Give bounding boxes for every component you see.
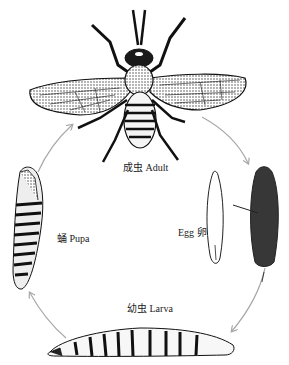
arrow-adult-to-egg	[202, 117, 248, 163]
pupa-label: 蛹 Pupa	[57, 234, 90, 244]
egg-outline-illustration	[207, 171, 223, 263]
egg-label: Egg 卵	[178, 228, 207, 238]
life-cycle-diagram: 成虫 Adult Egg 卵 幼虫 Larva 蛹 Pupa	[0, 0, 289, 365]
arrow-egg-to-larva	[232, 268, 265, 331]
egg-magnified-illustration	[233, 167, 278, 282]
arrow-pupa-to-adult	[38, 125, 72, 172]
arrow-larva-to-pupa	[30, 293, 66, 338]
adult-label: 成虫 Adult	[123, 163, 168, 173]
larva-illustration	[48, 328, 234, 356]
adult-fly-illustration	[30, 10, 246, 162]
larva-label: 幼虫 Larva	[127, 304, 173, 314]
pupa-illustration	[13, 167, 43, 289]
